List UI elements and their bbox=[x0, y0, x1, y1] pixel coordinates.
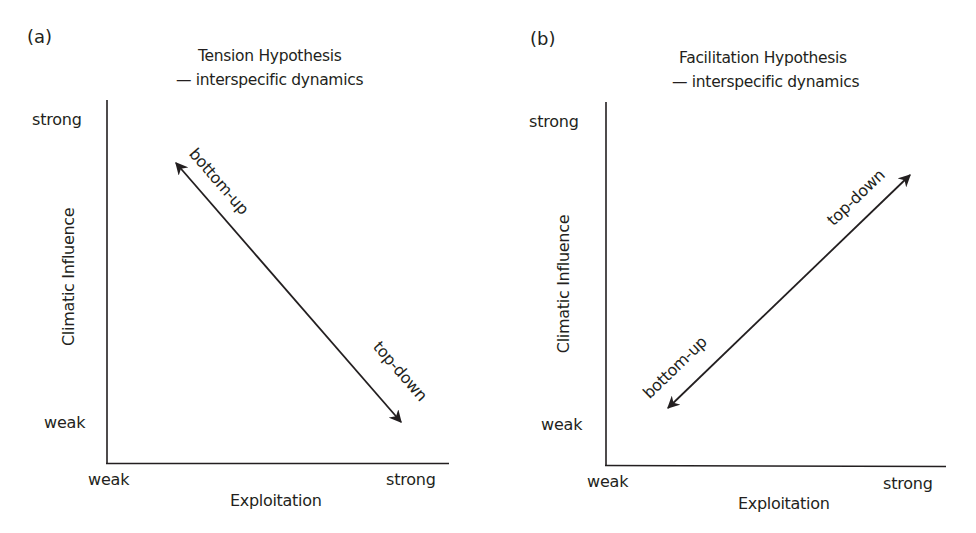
double-arrow bbox=[668, 175, 910, 408]
panel-b: (b) Facilitation Hypothesis — interspeci… bbox=[488, 0, 976, 533]
x-axis-line bbox=[605, 466, 946, 467]
axes-and-arrow bbox=[488, 0, 976, 533]
axes-and-arrow bbox=[0, 0, 488, 533]
panel-a: (a) Tension Hypothesis — interspecific d… bbox=[0, 0, 488, 533]
double-arrow bbox=[176, 163, 401, 422]
